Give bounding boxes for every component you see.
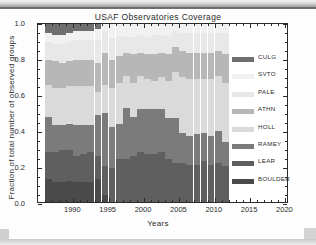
segment-svto — [95, 29, 102, 40]
segment-holl — [222, 83, 229, 142]
segment-lear — [194, 165, 201, 202]
segment-athn — [172, 47, 179, 72]
chart-legend: CULGSVTOPALEATHNHOLLRAMEYLEARBOULDER — [232, 52, 314, 191]
segment-lear — [116, 159, 123, 202]
x-tick — [186, 200, 187, 202]
segment-athn — [59, 63, 66, 88]
segment-ramey — [215, 131, 222, 163]
segment-holl — [201, 79, 208, 132]
x-tick — [95, 200, 96, 202]
bar-2006 — [186, 24, 193, 202]
segment-svto — [186, 24, 193, 33]
x-tick-label: 2005 — [170, 205, 187, 214]
legend-swatch — [232, 109, 254, 114]
x-tick — [222, 200, 223, 202]
segment-athn — [73, 60, 80, 87]
bar-1986 — [45, 24, 52, 202]
bar-1998 — [130, 24, 137, 202]
segment-holl — [66, 86, 73, 123]
x-tick — [52, 24, 53, 26]
legend-item-ramey[interactable]: RAMEY — [232, 139, 314, 156]
segment-lear — [201, 161, 208, 202]
segment-svto — [172, 24, 179, 31]
segment-lear — [52, 152, 59, 182]
segment-pale — [123, 37, 130, 53]
segment-boulder — [73, 182, 80, 202]
x-tick — [45, 24, 46, 26]
segment-athn — [123, 53, 130, 76]
segment-svto — [215, 24, 222, 33]
segment-boulder — [59, 182, 66, 202]
segment-ramey — [144, 109, 151, 154]
segment-svto — [102, 24, 109, 31]
segment-holl — [158, 77, 165, 109]
segment-pale — [201, 33, 208, 53]
segment-athn — [109, 60, 116, 88]
segment-svto — [137, 24, 144, 35]
segment-athn — [194, 53, 201, 80]
legend-item-svto[interactable]: SVTO — [232, 69, 314, 86]
bar-2000 — [144, 24, 151, 202]
segment-ramey — [179, 133, 186, 163]
legend-item-culg[interactable]: CULG — [232, 52, 314, 69]
segment-holl — [130, 83, 137, 117]
segment-athn — [137, 53, 144, 76]
legend-item-athn[interactable]: ATHN — [232, 104, 314, 121]
bar-1991 — [80, 24, 87, 202]
bar-1987 — [52, 24, 59, 202]
scan-corner-left — [0, 229, 9, 239]
segment-athn — [165, 54, 172, 81]
legend-swatch — [232, 144, 254, 149]
y-tick — [38, 177, 40, 178]
segment-athn — [222, 54, 229, 82]
segment-lear — [73, 156, 80, 183]
segment-lear — [80, 154, 87, 182]
segment-holl — [172, 72, 179, 118]
segment-athn — [52, 61, 59, 88]
segment-ramey — [165, 118, 172, 159]
x-tick — [59, 24, 60, 26]
segment-svto — [123, 24, 130, 36]
segment-pale — [165, 36, 172, 54]
y-tick-label: 0.0 — [15, 199, 25, 208]
bar-2002 — [158, 24, 165, 202]
x-tick — [144, 24, 145, 28]
scan-artifact-top — [0, 0, 316, 7]
y-tick — [38, 204, 42, 205]
segment-pale — [194, 33, 201, 53]
y-tick — [38, 78, 40, 79]
segment-holl — [116, 83, 123, 124]
y-tick — [38, 42, 40, 43]
y-tick-label: 0.8 — [15, 55, 25, 64]
segment-culg — [59, 24, 66, 35]
legend-item-boulder[interactable]: BOULDER — [232, 174, 314, 191]
bar-2008 — [201, 24, 208, 202]
x-tick — [257, 24, 258, 26]
segment-holl — [179, 77, 186, 132]
legend-label: RAMEY — [258, 140, 282, 147]
bar-1996 — [116, 24, 123, 202]
legend-swatch — [232, 127, 254, 132]
segment-holl — [186, 79, 193, 136]
legend-item-holl[interactable]: HOLL — [232, 122, 314, 139]
segment-ramey — [130, 117, 137, 156]
scan-rule-line — [0, 7, 316, 9]
y-tick — [38, 51, 40, 52]
x-tick — [165, 24, 166, 26]
segment-athn — [80, 60, 87, 87]
segment-ramey — [222, 142, 229, 167]
x-tick-label: 2000 — [135, 205, 152, 214]
segment-lear — [151, 154, 158, 202]
x-tick — [194, 24, 195, 26]
scan-artifact-bottom — [0, 239, 316, 245]
segment-lear — [109, 168, 116, 202]
bar-1988 — [59, 24, 66, 202]
legend-item-lear[interactable]: LEAR — [232, 156, 314, 173]
segment-ramey — [73, 125, 80, 155]
segment-holl — [59, 88, 66, 125]
segment-ramey — [59, 125, 66, 150]
y-tick — [285, 33, 287, 34]
y-tick — [38, 105, 40, 106]
segment-culg — [87, 24, 94, 31]
legend-item-pale[interactable]: PALE — [232, 87, 314, 104]
